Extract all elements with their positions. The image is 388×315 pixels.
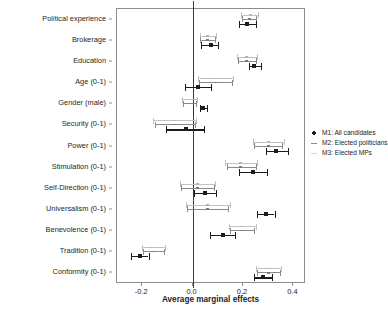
point-estimate-marker: [239, 166, 242, 168]
estimate-row: [117, 209, 304, 210]
estimate-row: [117, 247, 304, 248]
confidence-interval-cap: [249, 63, 250, 70]
confidence-interval-cap: [210, 232, 211, 239]
point-estimate-marker: [239, 162, 242, 163]
confidence-interval-cap: [204, 126, 205, 133]
estimate-row: [117, 172, 304, 173]
confidence-interval-cap: [149, 253, 150, 260]
estimate-row: [117, 193, 304, 194]
estimate-row: [117, 272, 304, 273]
confidence-interval-cap: [196, 101, 197, 107]
y-axis-tick: [109, 60, 112, 61]
confidence-interval-cap: [238, 58, 239, 64]
confidence-interval-cap: [166, 126, 167, 133]
estimate-row: [117, 124, 304, 125]
confidence-interval-cap: [216, 190, 217, 197]
estimate-row: [117, 15, 304, 16]
confidence-interval-cap: [227, 164, 228, 170]
confidence-interval-cap: [284, 139, 285, 145]
confidence-interval-cap: [155, 122, 156, 128]
point-estimate-marker: [261, 275, 265, 279]
legend-item-m3: M3: Elected MPs: [310, 148, 387, 158]
point-estimate-marker: [221, 233, 225, 237]
estimate-row: [117, 99, 304, 100]
estimate-row: [117, 167, 304, 168]
estimate-row: [117, 108, 304, 109]
confidence-interval-cap: [196, 118, 197, 124]
confidence-interval-cap: [165, 245, 166, 251]
confidence-interval-cap: [181, 185, 182, 191]
estimate-row: [117, 268, 304, 269]
estimate-row: [117, 142, 304, 143]
legend: M1: All candidatesM2: Elected politician…: [310, 128, 387, 158]
confidence-interval-cap: [187, 206, 188, 212]
confidence-interval-cap: [183, 101, 184, 107]
confidence-interval-cap: [257, 270, 258, 276]
confidence-interval-cap: [267, 169, 268, 176]
confidence-interval-cap: [215, 181, 216, 187]
confidence-interval-cap: [282, 143, 283, 149]
y-axis: Political experienceBrokerageEducationAg…: [0, 8, 112, 283]
estimate-row: [117, 251, 304, 252]
confidence-interval-cap: [201, 42, 202, 49]
y-axis-label: Self-Direction (0-1): [44, 184, 106, 192]
confidence-interval-cap: [232, 80, 233, 86]
confidence-interval-cap: [233, 76, 234, 82]
estimate-row: [117, 226, 304, 227]
confidence-interval-cap: [256, 224, 257, 230]
point-estimate-marker: [191, 103, 194, 105]
y-axis-label: Power (0-1): [67, 142, 106, 150]
estimate-row: [117, 214, 304, 215]
point-estimate-marker: [274, 149, 278, 153]
estimate-row: [117, 82, 304, 83]
confidence-interval-cap: [194, 190, 195, 197]
estimate-row: [117, 45, 304, 46]
x-axis-title: Average marginal effects: [116, 295, 305, 304]
x-axis-tick: [192, 283, 193, 286]
point-estimate-marker: [201, 106, 205, 110]
confidence-interval-cap: [228, 206, 229, 212]
y-axis-tick: [109, 82, 112, 83]
confidence-interval-cap: [153, 118, 154, 124]
estimate-row: [117, 184, 304, 185]
confidence-interval-cap: [266, 148, 267, 155]
point-estimate-marker: [151, 251, 154, 253]
point-estimate-marker: [267, 272, 270, 274]
confidence-interval-cap: [256, 21, 257, 28]
point-estimate-marker: [264, 212, 268, 216]
x-axis-tick: [141, 283, 142, 286]
point-estimate-marker: [206, 208, 209, 210]
point-estimate-marker: [240, 230, 243, 232]
estimate-row: [117, 24, 304, 25]
legend-marker-icon: [310, 128, 320, 138]
estimate-row: [117, 78, 304, 79]
confidence-interval-cap: [218, 42, 219, 49]
point-estimate-marker: [209, 43, 213, 47]
estimate-row: [117, 120, 304, 121]
confidence-interval-bar: [143, 251, 164, 252]
point-estimate-marker: [248, 18, 251, 20]
y-axis-label: Age (0-1): [75, 78, 106, 86]
estimate-row: [117, 103, 304, 104]
confidence-interval-cap: [235, 232, 236, 239]
estimate-row: [117, 36, 304, 37]
point-estimate-marker: [206, 39, 209, 41]
y-axis-tick: [109, 208, 112, 209]
confidence-interval-cap: [230, 228, 231, 234]
estimate-row: [117, 57, 304, 58]
confidence-interval-cap: [239, 169, 240, 176]
y-axis-label: Education: [73, 57, 106, 65]
estimate-row: [117, 235, 304, 236]
y-axis-tick: [109, 230, 112, 231]
point-estimate-marker: [214, 78, 217, 79]
y-axis-label: Benevolence (0-1): [46, 226, 106, 234]
confidence-interval-cap: [257, 54, 258, 60]
y-axis-label: Tradition (0-1): [60, 247, 106, 255]
point-estimate-marker: [206, 204, 209, 205]
confidence-interval-cap: [257, 211, 258, 218]
estimate-row: [117, 277, 304, 278]
y-axis-label: Conformity (0-1): [53, 268, 106, 276]
y-axis-tick: [109, 166, 112, 167]
confidence-interval-cap: [254, 143, 255, 149]
confidence-interval-cap: [254, 228, 255, 234]
